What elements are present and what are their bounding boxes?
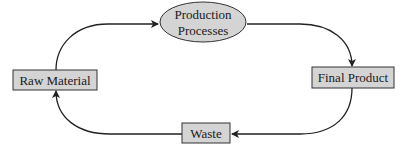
node-final-product: Final Product bbox=[312, 67, 394, 88]
arrow-waste-to-raw bbox=[56, 91, 182, 134]
arrow-raw-to-production bbox=[56, 24, 158, 70]
arrow-final-to-waste bbox=[232, 88, 352, 134]
node-label: Final Product bbox=[318, 70, 389, 85]
node-label-line1: Production bbox=[174, 7, 232, 22]
node-label: Waste bbox=[190, 126, 222, 141]
node-production-processes: Production Processes bbox=[160, 2, 246, 42]
node-label: Raw Material bbox=[19, 73, 91, 88]
arrow-production-to-final bbox=[247, 24, 352, 66]
node-waste: Waste bbox=[182, 123, 230, 143]
node-raw-material: Raw Material bbox=[13, 70, 97, 90]
node-label-line2: Processes bbox=[178, 23, 229, 38]
cycle-diagram: Production Processes Raw Material Final … bbox=[0, 0, 410, 153]
